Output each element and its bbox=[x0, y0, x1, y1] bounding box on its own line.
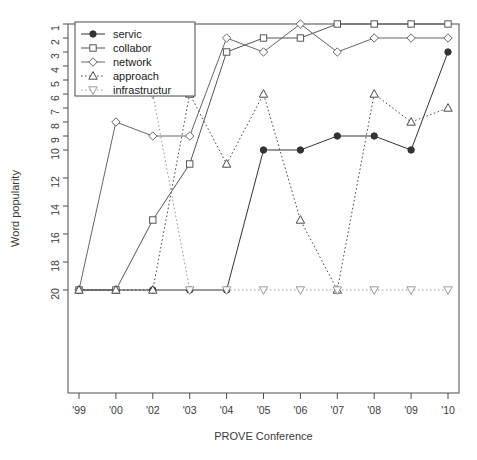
x-axis-tick-label: '08 bbox=[367, 404, 381, 416]
marker-filled-circle bbox=[445, 49, 451, 55]
y-axis-tick-label: 14 bbox=[49, 204, 61, 216]
line-chart: 123456789101214161820Word popularity'99'… bbox=[0, 0, 477, 460]
marker-triangle-up bbox=[444, 104, 452, 112]
x-axis-tick-label: '03 bbox=[183, 404, 197, 416]
y-axis-tick-label: 7 bbox=[49, 109, 61, 115]
y-axis-tick-label: 12 bbox=[49, 176, 61, 188]
marker-triangle-up bbox=[259, 90, 267, 98]
marker-square bbox=[445, 21, 451, 27]
marker-square bbox=[187, 161, 193, 167]
y-axis-tick-label: 16 bbox=[49, 232, 61, 244]
legend-label-servic: servic bbox=[113, 28, 142, 40]
marker-triangle-down bbox=[370, 287, 378, 295]
marker-triangle-down bbox=[296, 287, 304, 295]
marker-triangle-down bbox=[444, 287, 452, 295]
legend-label-network: network bbox=[113, 56, 152, 68]
x-axis-tick-label: '00 bbox=[109, 404, 123, 416]
marker-filled-circle bbox=[334, 133, 340, 139]
legend-label-approach: approach bbox=[113, 70, 159, 82]
series-approach bbox=[75, 90, 452, 294]
y-axis-tick-label: 8 bbox=[49, 123, 61, 129]
marker-square bbox=[260, 35, 266, 41]
y-axis-tick-label: 9 bbox=[49, 137, 61, 143]
marker-filled-circle bbox=[90, 31, 96, 37]
x-axis-tick-label: '09 bbox=[404, 404, 418, 416]
y-axis-tick-label: 3 bbox=[49, 53, 61, 59]
y-axis-tick-label: 10 bbox=[49, 148, 61, 160]
x-axis-title: PROVE Conference bbox=[214, 430, 312, 442]
chart-container: 123456789101214161820Word popularity'99'… bbox=[0, 0, 477, 460]
y-axis-tick-label: 4 bbox=[49, 67, 61, 73]
marker-diamond bbox=[333, 48, 341, 56]
marker-diamond bbox=[444, 34, 452, 42]
marker-square bbox=[334, 21, 340, 27]
chart-legend: serviccollabornetworkapproachinfrastruct… bbox=[75, 22, 195, 96]
y-axis-tick-label: 18 bbox=[49, 260, 61, 272]
marker-square bbox=[371, 21, 377, 27]
y-axis-tick-label: 6 bbox=[49, 95, 61, 101]
y-axis-title: Word popularity bbox=[9, 170, 21, 247]
marker-square bbox=[90, 45, 96, 51]
legend-label-collabor: collabor bbox=[113, 42, 152, 54]
marker-triangle-up bbox=[370, 90, 378, 98]
marker-square bbox=[223, 49, 229, 55]
marker-diamond bbox=[112, 118, 120, 126]
marker-square bbox=[150, 217, 156, 223]
marker-triangle-down bbox=[259, 287, 267, 295]
y-axis-tick-label: 20 bbox=[49, 288, 61, 300]
marker-triangle-down bbox=[407, 287, 415, 295]
series-line-infrastructur bbox=[79, 80, 448, 290]
marker-triangle-up bbox=[407, 118, 415, 126]
marker-filled-circle bbox=[297, 147, 303, 153]
marker-square bbox=[297, 35, 303, 41]
marker-diamond bbox=[407, 34, 415, 42]
marker-diamond bbox=[186, 132, 194, 140]
marker-diamond bbox=[222, 34, 230, 42]
series-line-approach bbox=[79, 94, 448, 290]
x-axis-tick-label: '02 bbox=[146, 404, 160, 416]
marker-filled-circle bbox=[408, 147, 414, 153]
x-axis-tick-label: '99 bbox=[72, 404, 86, 416]
marker-diamond bbox=[149, 132, 157, 140]
marker-filled-circle bbox=[260, 147, 266, 153]
x-axis-tick-label: '04 bbox=[220, 404, 234, 416]
y-axis-tick-label: 2 bbox=[49, 39, 61, 45]
marker-diamond bbox=[296, 20, 304, 28]
marker-triangle-up bbox=[222, 160, 230, 168]
y-axis-tick-label: 1 bbox=[49, 25, 61, 31]
x-axis-tick-label: '06 bbox=[294, 404, 308, 416]
y-axis-tick-label: 5 bbox=[49, 81, 61, 87]
marker-diamond bbox=[259, 48, 267, 56]
marker-triangle-up bbox=[296, 216, 304, 224]
marker-square bbox=[408, 21, 414, 27]
marker-filled-circle bbox=[371, 133, 377, 139]
marker-diamond bbox=[370, 34, 378, 42]
series-infrastructur bbox=[75, 77, 452, 295]
x-axis-tick-label: '10 bbox=[441, 404, 455, 416]
x-axis-tick-label: '05 bbox=[257, 404, 271, 416]
legend-label-infrastructur: infrastructur bbox=[113, 84, 171, 96]
x-axis-tick-label: '07 bbox=[330, 404, 344, 416]
